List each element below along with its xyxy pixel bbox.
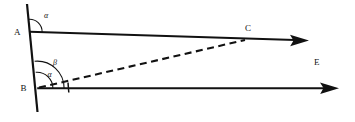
diagram-svg: A B C E α β α [0,0,355,122]
label-angle-alpha-at-a: α [44,11,49,20]
label-angle-beta-at-b: β [52,58,57,67]
label-point-a: A [14,27,21,37]
label-point-b: B [21,83,27,93]
dashed-segment-bc [39,40,245,88]
transversal-line [27,4,38,112]
label-angle-alpha-at-b: α [48,70,53,79]
label-point-e: E [314,57,320,67]
geometry-diagram-canvas: A B C E α β α [0,0,355,122]
ray-from-a [30,32,303,41]
label-point-c: C [245,23,251,33]
